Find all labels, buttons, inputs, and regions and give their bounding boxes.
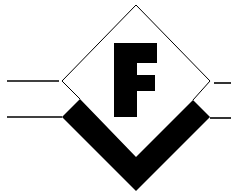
- diamond-f-logo-graphic: [0, 0, 231, 191]
- letter-f-icon: [114, 43, 157, 117]
